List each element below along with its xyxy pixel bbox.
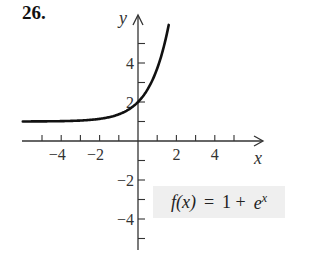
formula-base: e: [254, 193, 262, 213]
formula-exponent: x: [262, 191, 267, 205]
y-axis-label: y: [117, 8, 127, 28]
function-curve: [23, 25, 169, 122]
formula-constant: 1 +: [222, 192, 246, 213]
formula-lhs: f(x): [171, 192, 196, 213]
x-tick-label: −4: [49, 146, 66, 163]
function-formula-label: f(x) = 1 + ex: [153, 186, 285, 218]
x-tick-label: 4: [211, 146, 219, 163]
x-tick-label: −2: [87, 146, 104, 163]
formula-equals: =: [204, 192, 214, 213]
y-tick-label: −2: [117, 172, 134, 189]
y-tick-label: −4: [117, 211, 134, 228]
x-tick-label: 2: [172, 146, 180, 163]
y-tick-label: 4: [126, 55, 134, 72]
x-axis-label: x: [253, 148, 262, 168]
